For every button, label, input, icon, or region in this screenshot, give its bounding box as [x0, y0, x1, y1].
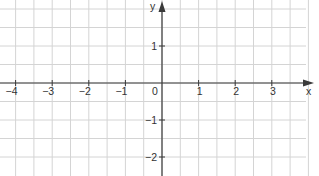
x-tick-label: 1: [197, 85, 203, 97]
x-tick-label: −2: [79, 85, 91, 97]
y-tick-label: −1: [145, 114, 157, 126]
x-axis-label: x: [306, 85, 312, 97]
x-tick-label: 2: [233, 85, 239, 97]
x-tick-label: −3: [42, 85, 54, 97]
x-tick-label: −1: [115, 85, 127, 97]
y-axis-arrow-icon: [159, 1, 166, 12]
y-tick-label: 1: [151, 40, 157, 52]
coordinate-plane: −4−3−2−11231−1−2 x y 0: [0, 0, 319, 176]
y-axis-label: y: [150, 0, 156, 12]
origin-label: 0: [152, 85, 158, 97]
x-tick-label: −4: [6, 85, 18, 97]
x-tick-label: 3: [270, 85, 276, 97]
y-tick-label: −2: [145, 151, 157, 163]
